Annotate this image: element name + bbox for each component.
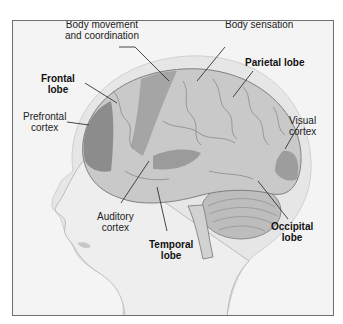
label-line: Occipital [271, 221, 313, 232]
label-line: lobe [271, 232, 313, 243]
label-line: Prefrontal [23, 111, 66, 122]
label-line: Temporal [149, 239, 193, 250]
label-occipital-lobe: Occipital lobe [271, 221, 313, 243]
label-line: Auditory [97, 211, 134, 222]
label-line: lobe [41, 84, 75, 95]
label-visual-cortex: Visual cortex [289, 115, 316, 137]
label-line: Frontal [41, 73, 75, 84]
label-line: cortex [97, 222, 134, 233]
label-temporal-lobe: Temporal lobe [149, 239, 193, 261]
label-line: cortex [289, 126, 316, 137]
label-body-sensation: Body sensation [225, 20, 293, 30]
label-line: Body sensation [225, 20, 293, 30]
label-line: cortex [23, 122, 66, 133]
label-line: Parietal lobe [245, 57, 304, 68]
label-prefrontal-cortex: Prefrontal cortex [23, 111, 66, 133]
label-line: and coordination [65, 30, 139, 41]
label-frontal-lobe: Frontal lobe [41, 73, 75, 95]
label-line: lobe [149, 250, 193, 261]
label-line: Body movement [65, 20, 139, 30]
label-auditory-cortex: Auditory cortex [97, 211, 134, 233]
diagram-frame: Body movement and coordination Body sens… [12, 20, 334, 316]
label-body-movement: Body movement and coordination [65, 20, 139, 41]
label-parietal-lobe: Parietal lobe [245, 57, 304, 68]
label-line: Visual [289, 115, 316, 126]
